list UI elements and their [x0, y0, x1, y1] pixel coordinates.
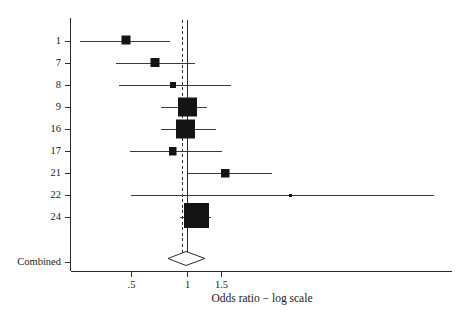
forest-row-study-24 [180, 203, 211, 228]
y-axis-labels: 1 7 8 9 16 17 21 22 24 Combined [17, 35, 62, 267]
study-rows [80, 36, 434, 229]
y-label-combined: Combined [17, 256, 61, 267]
forest-row-study-22 [131, 194, 434, 197]
effect-marker [170, 82, 176, 88]
y-label-study-16: 16 [51, 123, 62, 134]
forest-row-study-17 [130, 147, 222, 156]
effect-marker [151, 58, 160, 67]
y-label-study-24: 24 [51, 211, 62, 222]
y-label-study-1: 1 [56, 35, 61, 46]
x-tick-label-0.5: .5 [128, 279, 136, 290]
effect-marker [221, 169, 230, 178]
forest-row-study-21 [188, 169, 272, 178]
forest-row-study-1 [80, 36, 170, 45]
effect-marker [178, 98, 197, 117]
effect-marker [122, 36, 131, 45]
y-label-study-8: 8 [56, 79, 61, 90]
x-axis-ticks [132, 272, 222, 278]
y-label-study-17: 17 [51, 145, 62, 156]
y-label-study-7: 7 [56, 57, 61, 68]
summary-diamond [168, 252, 205, 266]
forest-row-study-16 [161, 120, 216, 139]
effect-marker [176, 120, 195, 139]
effect-marker [169, 147, 177, 156]
effect-marker [289, 194, 292, 197]
forest-row-study-8 [119, 82, 231, 88]
x-tick-label-1.5: 1.5 [215, 279, 228, 290]
y-label-study-9: 9 [56, 101, 61, 112]
y-label-study-21: 21 [51, 167, 62, 178]
forest-row-study-9 [161, 98, 207, 117]
forest-plot-canvas: 1 7 8 9 16 17 21 22 24 Combined [0, 0, 458, 312]
forest-plot-figure: 1 7 8 9 16 17 21 22 24 Combined [0, 0, 458, 312]
plot-axes [71, 18, 453, 272]
forest-row-study-7 [116, 58, 195, 67]
effect-marker [184, 203, 209, 228]
y-label-study-22: 22 [51, 189, 62, 200]
x-tick-label-1: 1 [185, 279, 190, 290]
y-axis-ticks [65, 42, 71, 263]
x-axis-labels: .5 1 1.5 [128, 279, 229, 290]
x-axis-title: Odds ratio − log scale [211, 292, 312, 305]
forest-row-combined [168, 252, 205, 266]
